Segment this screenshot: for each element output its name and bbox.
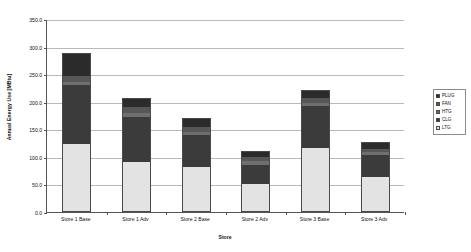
- y-tick-mark: [44, 213, 47, 214]
- y-tick-label: 350.0: [29, 17, 42, 23]
- bar-segment-ltg[interactable]: [62, 144, 91, 212]
- plot-area: 0.050.0100.0150.0200.0250.0300.0350.0: [46, 20, 404, 213]
- y-tick-label: 50.0: [32, 182, 42, 188]
- x-tick-label: Store 2 Adv: [242, 216, 268, 222]
- x-tick-mark: [286, 212, 287, 215]
- bar-segment-clg[interactable]: [182, 135, 211, 166]
- y-tick-label: 150.0: [29, 127, 42, 133]
- legend-label: PLUG: [442, 92, 455, 100]
- bar-stack[interactable]: [301, 90, 330, 212]
- x-tick-mark: [345, 212, 346, 215]
- y-tick-label: 100.0: [29, 155, 42, 161]
- chart-legend: PLUGFANHTGCLGLTG: [433, 89, 466, 135]
- bar-segment-plug[interactable]: [301, 90, 330, 98]
- legend-item-ltg[interactable]: LTG: [436, 124, 464, 132]
- y-tick-label: 250.0: [29, 72, 42, 78]
- bar-segment-clg[interactable]: [241, 165, 270, 185]
- bar-segment-clg[interactable]: [122, 117, 151, 163]
- x-tick-label: Store 1 Adv: [122, 216, 148, 222]
- legend-label: FAN: [442, 100, 451, 108]
- bar-segment-plug[interactable]: [182, 118, 211, 127]
- y-axis-title-text: Annual Energy Use [MBtu]: [6, 73, 12, 140]
- bar-segment-ltg[interactable]: [122, 162, 151, 212]
- legend-swatch-plug: [436, 94, 440, 98]
- y-tick-label: 0.0: [35, 210, 42, 216]
- legend-label: LTG: [442, 124, 451, 132]
- legend-item-fan[interactable]: FAN: [436, 100, 464, 108]
- y-tick-label: 200.0: [29, 100, 42, 106]
- bar-segment-plug[interactable]: [62, 53, 91, 76]
- bar-segment-ltg[interactable]: [182, 167, 211, 212]
- bar-stack[interactable]: [62, 53, 91, 212]
- legend-item-plug[interactable]: PLUG: [436, 92, 464, 100]
- bar-stack[interactable]: [122, 98, 151, 212]
- x-axis-title: Store: [46, 234, 404, 240]
- legend-item-clg[interactable]: CLG: [436, 116, 464, 124]
- bar-segment-clg[interactable]: [301, 106, 330, 148]
- legend-swatch-fan: [436, 102, 440, 106]
- x-tick-mark: [405, 212, 406, 215]
- chart-container: Annual Energy Use [MBtu] 0.050.0100.0150…: [0, 0, 471, 252]
- bar-segment-ltg[interactable]: [241, 184, 270, 212]
- y-axis-title: Annual Energy Use [MBtu]: [2, 0, 16, 213]
- bars-layer: [47, 20, 404, 212]
- legend-label: CLG: [442, 116, 451, 124]
- x-tick-mark: [107, 212, 108, 215]
- legend-swatch-clg: [436, 118, 440, 122]
- x-tick-label: Store 3 Base: [300, 216, 329, 222]
- legend-swatch-htg: [436, 110, 440, 114]
- bar-segment-ltg[interactable]: [301, 148, 330, 212]
- x-tick-label: Store 1 Base: [61, 216, 90, 222]
- bar-stack[interactable]: [361, 142, 390, 212]
- x-tick-mark: [166, 212, 167, 215]
- x-tick-label: Store 3 Adv: [361, 216, 387, 222]
- x-tick-mark: [226, 212, 227, 215]
- bar-segment-plug[interactable]: [361, 142, 390, 149]
- y-tick-label: 300.0: [29, 45, 42, 51]
- x-tick-label: Store 2 Base: [180, 216, 209, 222]
- bar-segment-plug[interactable]: [122, 98, 151, 107]
- legend-label: HTG: [442, 108, 452, 116]
- legend-item-htg[interactable]: HTG: [436, 108, 464, 116]
- legend-swatch-ltg: [436, 126, 440, 130]
- bar-segment-fan[interactable]: [62, 76, 91, 83]
- bar-stack[interactable]: [241, 151, 270, 212]
- bar-segment-clg[interactable]: [62, 85, 91, 144]
- bar-segment-clg[interactable]: [361, 155, 390, 177]
- bar-segment-ltg[interactable]: [361, 177, 390, 212]
- bar-stack[interactable]: [182, 118, 211, 212]
